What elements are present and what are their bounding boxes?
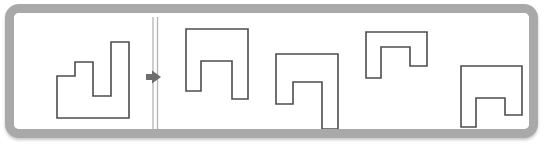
candidate-shape-2[interactable] [276,54,338,129]
figure-frame [5,4,538,138]
shapes-canvas [14,13,529,129]
figure-canvas [14,13,529,129]
right-arrow-icon [146,71,161,84]
puzzle-figure [0,0,553,149]
candidate-shape-1[interactable] [186,29,248,99]
candidate-shape-3[interactable] [366,32,427,78]
query-shape [57,42,129,118]
candidate-shape-4[interactable] [461,66,522,127]
